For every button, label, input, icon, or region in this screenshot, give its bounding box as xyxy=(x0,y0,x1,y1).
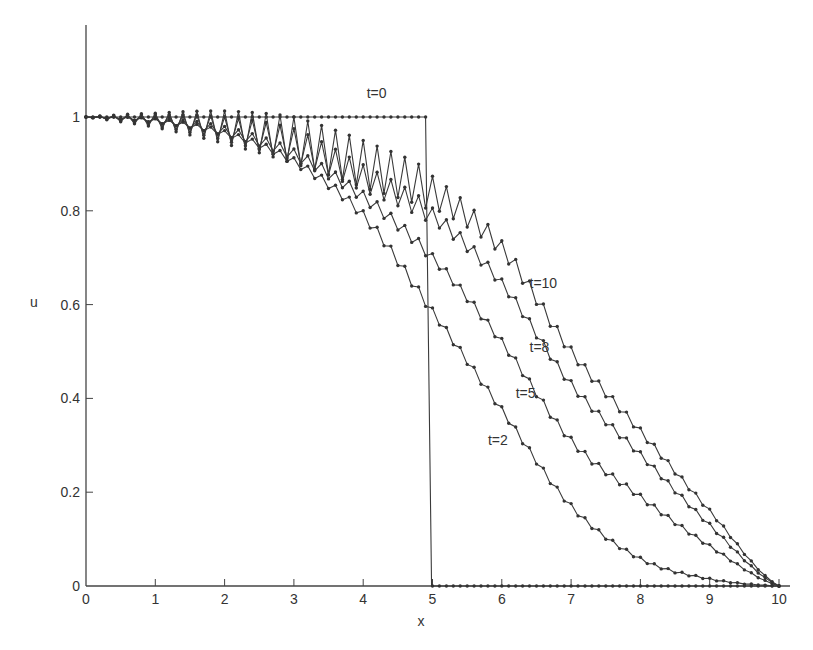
data-point xyxy=(646,562,649,565)
data-point xyxy=(278,141,281,144)
data-point xyxy=(673,571,676,574)
data-point xyxy=(403,224,406,227)
data-point xyxy=(521,584,524,587)
data-point xyxy=(334,170,337,173)
data-point xyxy=(375,171,378,174)
data-point xyxy=(396,115,399,118)
data-point xyxy=(736,562,739,565)
data-point xyxy=(708,543,711,546)
data-point xyxy=(597,462,600,465)
data-point xyxy=(722,579,725,582)
data-point xyxy=(576,450,579,453)
series-t-8 xyxy=(84,113,780,588)
data-point xyxy=(438,584,441,587)
data-point xyxy=(514,258,517,261)
data-point xyxy=(757,583,760,586)
data-point xyxy=(320,173,323,176)
data-point xyxy=(202,137,205,140)
x-tick-label: 5 xyxy=(429,591,437,607)
data-point xyxy=(327,187,330,190)
data-point xyxy=(583,516,586,519)
data-point xyxy=(590,527,593,530)
data-point xyxy=(507,262,510,265)
data-point xyxy=(653,562,656,565)
data-point xyxy=(452,238,455,241)
data-point xyxy=(355,115,358,118)
data-point xyxy=(362,163,365,166)
data-point xyxy=(389,115,392,118)
data-point xyxy=(583,395,586,398)
data-point xyxy=(285,115,288,118)
data-point xyxy=(486,261,489,264)
data-point xyxy=(729,546,732,549)
data-point xyxy=(625,482,628,485)
data-point xyxy=(431,584,434,587)
data-point xyxy=(334,148,337,151)
x-tick-label: 3 xyxy=(290,591,298,607)
data-point xyxy=(168,111,171,114)
data-point xyxy=(403,115,406,118)
data-point xyxy=(611,423,614,426)
data-point xyxy=(576,395,579,398)
data-point xyxy=(777,584,780,587)
data-point xyxy=(368,226,371,229)
data-point xyxy=(368,188,371,191)
data-point xyxy=(472,301,475,304)
data-point xyxy=(348,195,351,198)
data-point xyxy=(237,133,240,136)
data-point xyxy=(611,539,614,542)
data-point xyxy=(445,185,448,188)
data-point xyxy=(112,113,115,116)
series-line xyxy=(86,111,779,586)
data-point xyxy=(445,584,448,587)
data-point xyxy=(604,584,607,587)
data-point xyxy=(306,154,309,157)
data-point xyxy=(417,162,420,165)
data-point xyxy=(743,559,746,562)
curve-label-t-10: t=10 xyxy=(530,275,558,291)
data-point xyxy=(299,164,302,167)
data-point xyxy=(368,206,371,209)
data-point xyxy=(348,134,351,137)
series-t-0 xyxy=(84,115,780,587)
data-point xyxy=(528,317,531,320)
data-point xyxy=(639,426,642,429)
x-ticks: 012345678910 xyxy=(82,579,787,607)
data-point xyxy=(715,519,718,522)
data-point xyxy=(223,129,226,132)
data-point xyxy=(535,462,538,465)
data-point xyxy=(389,178,392,181)
data-point xyxy=(660,457,663,460)
data-point xyxy=(271,155,274,158)
data-point xyxy=(459,584,462,587)
data-point xyxy=(763,574,766,577)
data-point xyxy=(653,464,656,467)
data-point xyxy=(507,422,510,425)
data-point xyxy=(618,547,621,550)
data-point xyxy=(133,115,136,118)
data-point xyxy=(563,434,566,437)
data-point xyxy=(590,584,593,587)
data-point xyxy=(438,268,441,271)
data-point xyxy=(479,317,482,320)
data-point xyxy=(472,245,475,248)
data-point xyxy=(209,122,212,125)
data-point xyxy=(583,450,586,453)
curve-label-t-2: t=2 xyxy=(488,432,508,448)
data-point xyxy=(625,410,628,413)
data-point xyxy=(500,277,503,280)
x-tick-label: 1 xyxy=(151,591,159,607)
data-point xyxy=(708,577,711,580)
data-point xyxy=(521,315,524,318)
data-point xyxy=(466,300,469,303)
data-point xyxy=(396,196,399,199)
data-point xyxy=(590,410,593,413)
curve-labels: t=0t=2t=5t=8t=10 xyxy=(367,85,558,448)
series-t-10 xyxy=(84,109,780,588)
data-point xyxy=(521,442,524,445)
data-point xyxy=(362,189,365,192)
data-point xyxy=(701,542,704,545)
data-point xyxy=(750,559,753,562)
data-point xyxy=(493,335,496,338)
data-point xyxy=(694,508,697,511)
